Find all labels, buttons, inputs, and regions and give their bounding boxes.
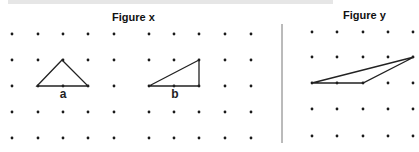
- triangle-b: [149, 60, 199, 86]
- triangle-a: [37, 60, 88, 86]
- grid-dot: [362, 56, 365, 59]
- grid-dot: [148, 59, 151, 62]
- grid-dot: [113, 85, 116, 88]
- grid-dot: [311, 56, 314, 59]
- triangle-label-a: a: [60, 87, 67, 101]
- grid-dot: [113, 33, 116, 36]
- grid-dot: [250, 33, 253, 36]
- grid-dot: [198, 137, 201, 140]
- grid-dot: [387, 108, 390, 111]
- grid-dot: [148, 111, 151, 114]
- grid-dot: [11, 137, 14, 140]
- grid-dot: [62, 33, 65, 36]
- triangle-label-b: b: [171, 87, 178, 101]
- grid-dot: [336, 135, 339, 138]
- grid-dot: [412, 135, 415, 138]
- grid-dot: [224, 59, 227, 62]
- triangle-figure-y: [312, 57, 414, 83]
- grid-dot: [362, 135, 365, 138]
- grid-dot: [148, 137, 151, 140]
- grid-dot: [412, 31, 415, 34]
- grid-dot: [113, 137, 116, 140]
- grid-dot: [198, 33, 201, 36]
- grid-dot: [62, 111, 65, 114]
- triangles: ab: [37, 57, 414, 101]
- grid-dot: [11, 111, 14, 114]
- grid-dot: [250, 111, 253, 114]
- grid-dot: [113, 59, 116, 62]
- grid-dot: [224, 85, 227, 88]
- grid-dot: [173, 33, 176, 36]
- grid-dot: [148, 33, 151, 36]
- grid-dot: [173, 137, 176, 140]
- dot-grid: [11, 31, 415, 140]
- grid-dot: [412, 82, 415, 85]
- grid-dot: [224, 137, 227, 140]
- grid-dot: [250, 59, 253, 62]
- grid-dot: [37, 137, 40, 140]
- grid-dot: [387, 135, 390, 138]
- grid-dot: [113, 111, 116, 114]
- grid-dot: [37, 111, 40, 114]
- dot-grid-canvas: ab: [0, 0, 419, 152]
- grid-dot: [11, 33, 14, 36]
- grid-dot: [87, 111, 90, 114]
- grid-dot: [37, 59, 40, 62]
- grid-dot: [362, 31, 365, 34]
- grid-dot: [173, 111, 176, 114]
- grid-dot: [250, 85, 253, 88]
- grid-dot: [250, 137, 253, 140]
- grid-dot: [87, 33, 90, 36]
- grid-dot: [62, 137, 65, 140]
- grid-dot: [224, 111, 227, 114]
- grid-dot: [387, 56, 390, 59]
- grid-dot: [224, 33, 227, 36]
- grid-dot: [336, 108, 339, 111]
- grid-dot: [311, 135, 314, 138]
- grid-dot: [311, 31, 314, 34]
- grid-dot: [37, 33, 40, 36]
- grid-dot: [87, 59, 90, 62]
- grid-dot: [336, 31, 339, 34]
- grid-dot: [387, 31, 390, 34]
- grid-dot: [336, 56, 339, 59]
- grid-dot: [11, 85, 14, 88]
- grid-dot: [11, 59, 14, 62]
- grid-dot: [362, 108, 365, 111]
- grid-dot: [87, 137, 90, 140]
- grid-dot: [198, 111, 201, 114]
- grid-dot: [412, 108, 415, 111]
- grid-dot: [387, 82, 390, 85]
- grid-dot: [173, 59, 176, 62]
- grid-dot: [311, 108, 314, 111]
